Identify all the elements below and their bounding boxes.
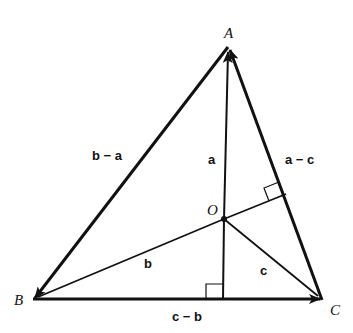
- right-angle-mark-bc: [206, 284, 223, 299]
- label-point-c: C: [330, 302, 341, 318]
- vector-c: [224, 219, 318, 296]
- label-vector-a-minus-c: a − c: [285, 152, 314, 167]
- label-point-b: B: [14, 292, 23, 308]
- label-vector-c-minus-b: c − b: [172, 309, 202, 324]
- label-point-a: A: [223, 25, 234, 41]
- label-vector-b: b: [144, 256, 152, 271]
- label-vector-a: a: [208, 152, 216, 167]
- label-point-o: O: [207, 202, 218, 218]
- vector-a: [224, 52, 228, 219]
- altitude-to-ac: [224, 194, 286, 219]
- orthocenter-vector-diagram: A B C O b − a a a − c b c c − b: [0, 0, 353, 333]
- point-o-dot: [221, 216, 227, 222]
- vector-b-minus-a: [35, 47, 228, 298]
- label-vector-b-minus-a: b − a: [92, 148, 123, 163]
- altitude-a-extension: [223, 219, 224, 299]
- label-vector-c: c: [260, 263, 267, 278]
